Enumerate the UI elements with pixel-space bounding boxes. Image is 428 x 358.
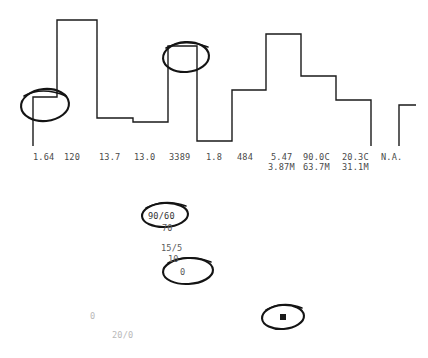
axis-label-na: N.A.	[381, 152, 403, 162]
axis-label-13-0: 13.0	[134, 152, 156, 162]
axis-label-1-64: 1.64	[33, 152, 55, 162]
value-10: 10	[168, 254, 179, 264]
axis-label-1-8: 1.8	[206, 152, 222, 162]
axis-label-20-3c: 20.3C	[342, 152, 369, 162]
axis-label-3389: 3389	[169, 152, 191, 162]
value-hr-70: 70	[162, 223, 173, 233]
selected-point-marker[interactable]	[280, 314, 286, 320]
value-0-circled: 0	[180, 267, 185, 277]
axis-sublabel-63-7m: 63.7M	[303, 162, 330, 172]
value-0-faint: 0	[90, 311, 95, 321]
axis-label-90-0c: 90.0C	[303, 152, 330, 162]
axis-label-5-47: 5.47	[271, 152, 293, 162]
value-bp-90-60: 90/60	[148, 211, 175, 221]
annotation-layer	[0, 0, 428, 358]
axis-label-484: 484	[237, 152, 253, 162]
axis-label-13-7: 13.7	[99, 152, 121, 162]
axis-label-120: 120	[64, 152, 80, 162]
value-20-0-faint: 20/0	[112, 330, 134, 340]
value-15-5: 15/5	[161, 243, 183, 253]
annotated-step-chart: 1.64 120 13.7 13.0 3389 1.8 484 5.47 90.…	[0, 0, 428, 358]
axis-sublabel-31-1m: 31.1M	[342, 162, 369, 172]
annotation-circle-middle[interactable]	[162, 40, 210, 73]
annotation-circle-left[interactable]	[20, 87, 71, 123]
axis-sublabel-3-87m: 3.87M	[268, 162, 295, 172]
